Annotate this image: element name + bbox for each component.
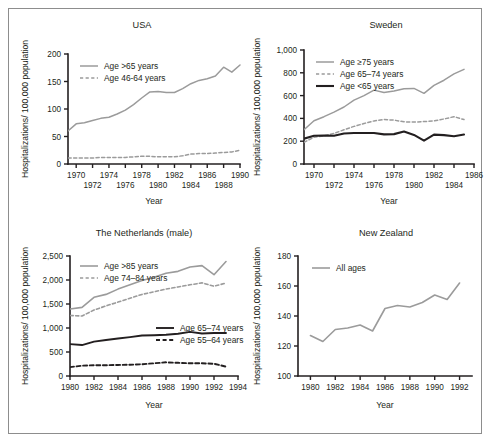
x-tick-label-sweden-2: 1974 [345,171,364,180]
y-axis-title-sweden: Hospitalizations/ 100,000 population [252,38,262,176]
x-tick-label-netherlands-4: 1988 [157,383,176,392]
legend-netherlands-0: Age >85 yearsAge 74–84 years [80,261,167,283]
legend-sweden-0: Age ≥75 yearsAge 65–74 yearsAge <65 year… [316,57,403,91]
x-tick-label-netherlands-2: 1984 [109,383,128,392]
y-tick-label-newzealand-2: 140 [277,312,291,321]
x-tick-label-newzealand-1: 1982 [326,383,345,392]
y-axis-title-newzealand: Hospitalizations/ 100,000 population [252,247,262,385]
y-tick-label-netherlands-2: 1,000 [43,324,64,333]
x-axis-title-newzealand: Year [376,400,394,410]
legend-label-netherlands-2: Age 65–74 years [180,323,243,333]
y-tick-label-newzealand-1: 120 [277,342,291,351]
legend-label-newzealand-0: All ages [336,263,366,273]
y-tick-label-sweden-0: 0 [292,160,297,169]
x-tick-label-netherlands-7: 1994 [229,383,248,392]
y-tick-label-newzealand-3: 160 [277,282,291,291]
legend-label-netherlands-3: Age 55–64 years [180,335,243,345]
y-tick-label-usa-3: 150 [47,78,61,87]
x-tick-label-usa-8: 1986 [198,171,217,180]
legend-label-sweden-1: Age 65–74 years [340,69,403,79]
x-tick-label-usa-2: 1974 [100,171,119,180]
x-tick-label-sweden-6: 1982 [425,171,444,180]
x-tick-label-usa-6: 1982 [165,171,184,180]
y-tick-label-newzealand-0: 100 [277,372,291,381]
chart-svg-netherlands: The Netherlands (male)05001,0001,5002,00… [14,222,246,428]
x-tick-label-newzealand-4: 1988 [401,383,420,392]
legend-label-sweden-0: Age ≥75 years [340,57,394,67]
x-tick-label-usa-1: 1972 [83,181,102,190]
x-tick-label-netherlands-3: 1986 [133,383,152,392]
x-axis-title-netherlands: Year [145,400,163,410]
x-tick-label-newzealand-3: 1986 [376,383,395,392]
y-tick-label-sweden-2: 400 [283,114,297,123]
chart-title-sweden: Sweden [369,20,402,30]
y-tick-label-sweden-3: 600 [283,92,297,101]
figure-container: USA0501001502001970197219741976197819801… [0,0,490,442]
y-tick-label-usa-4: 200 [47,50,61,59]
y-tick-label-usa-0: 0 [56,160,61,169]
series-line-sweden-2 [304,132,464,141]
x-tick-label-sweden-7: 1984 [445,181,464,190]
chart-svg-usa: USA0501001502001970197219741976197819801… [14,14,246,222]
series-line-newzealand-0 [310,283,459,342]
chart-title-netherlands: The Netherlands (male) [96,228,193,238]
x-tick-label-usa-4: 1978 [133,171,152,180]
x-tick-label-netherlands-1: 1982 [85,383,104,392]
legend-label-netherlands-0: Age >85 years [104,261,158,271]
x-tick-label-sweden-4: 1978 [385,171,404,180]
chart-panel-netherlands: The Netherlands (male)05001,0001,5002,00… [14,222,246,428]
y-tick-label-netherlands-4: 2,000 [43,276,64,285]
series-line-netherlands-1 [70,283,226,316]
x-tick-label-sweden-5: 1980 [405,181,424,190]
y-axis-title-usa: Hospitalizations/ 100,000 population [20,40,30,178]
y-tick-label-sweden-4: 800 [283,69,297,78]
series-line-usa-1 [68,150,240,158]
x-tick-label-usa-3: 1976 [116,181,135,190]
x-axis-title-sweden: Year [380,196,398,206]
y-tick-label-netherlands-1: 500 [49,348,63,357]
chart-panel-newzealand: New Zealand10012014016018019801982198419… [246,222,482,428]
y-tick-label-netherlands-0: 0 [58,372,63,381]
chart-svg-sweden: Sweden02004006008001,0001970197219741976… [246,14,482,222]
y-tick-label-sweden-1: 200 [283,137,297,146]
y-tick-label-sweden-5: 1,000 [277,46,298,55]
x-tick-label-newzealand-0: 1980 [301,383,320,392]
series-line-netherlands-3 [70,362,226,367]
x-tick-label-newzealand-6: 1992 [450,383,469,392]
y-tick-label-netherlands-5: 2,500 [43,252,64,261]
y-tick-label-netherlands-3: 1,500 [43,300,64,309]
legend-newzealand-0: All ages [312,263,366,273]
x-tick-label-sweden-3: 1976 [365,181,384,190]
x-tick-label-netherlands-0: 1980 [61,383,80,392]
x-tick-label-netherlands-6: 1992 [205,383,224,392]
plot-area-newzealand [310,283,459,342]
x-tick-label-sweden-1: 1972 [325,181,344,190]
x-tick-label-newzealand-2: 1984 [351,383,370,392]
chart-panel-usa: USA0501001502001970197219741976197819801… [14,14,246,222]
y-axis-title-netherlands: Hospitalizations/ 100,000 population [20,247,30,385]
chart-title-usa: USA [133,20,153,30]
x-tick-label-sweden-8: 1986 [465,171,484,180]
series-line-sweden-1 [304,117,464,143]
y-tick-label-usa-2: 100 [47,105,61,114]
legend-usa-0: Age >65 yearsAge 46-64 years [80,61,165,83]
x-tick-label-netherlands-5: 1990 [181,383,200,392]
x-tick-label-usa-9: 1988 [215,181,234,190]
legend-label-netherlands-1: Age 74–84 years [104,273,167,283]
legend-label-sweden-2: Age <65 years [340,81,394,91]
x-tick-label-usa-7: 1984 [182,181,201,190]
chart-svg-newzealand: New Zealand10012014016018019801982198419… [246,222,482,428]
legend-label-usa-1: Age 46-64 years [104,73,165,83]
x-tick-label-sweden-0: 1970 [305,171,324,180]
x-axis-title-usa: Year [145,196,163,206]
x-tick-label-usa-0: 1970 [67,171,86,180]
y-tick-label-usa-1: 50 [52,133,62,142]
x-tick-label-usa-5: 1980 [149,181,168,190]
chart-panel-sweden: Sweden02004006008001,0001970197219741976… [246,14,482,222]
legend-label-usa-0: Age >65 years [104,61,158,71]
x-tick-label-newzealand-5: 1990 [426,383,445,392]
y-tick-label-newzealand-4: 180 [277,252,291,261]
chart-title-newzealand: New Zealand [359,228,413,238]
